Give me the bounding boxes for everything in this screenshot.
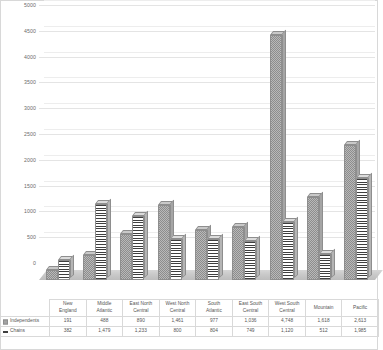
legend-label: Independents bbox=[10, 318, 39, 323]
bar-side-face bbox=[144, 211, 148, 278]
gridline bbox=[39, 5, 375, 6]
bar-front-face bbox=[58, 260, 70, 280]
bar-chains-new-england[interactable] bbox=[58, 260, 70, 280]
table-column-header-line: New bbox=[50, 301, 86, 308]
table-column-header-line: Central bbox=[123, 308, 159, 315]
table-cell: 1,036 bbox=[232, 317, 269, 327]
table-column-header: MiddleAtlantic bbox=[86, 300, 123, 317]
table-cell: 1,618 bbox=[305, 317, 342, 327]
bar-chains-west-north-central[interactable] bbox=[170, 239, 182, 280]
bar-independents-pacific[interactable] bbox=[344, 145, 356, 280]
legend-swatch-icon bbox=[3, 319, 8, 324]
data-table: NewEnglandMiddleAtlanticEast NorthCentra… bbox=[1, 299, 379, 337]
bar-group bbox=[263, 22, 300, 280]
bar-side-face bbox=[294, 217, 298, 278]
table-column-header-line: East South bbox=[233, 301, 269, 308]
table-cell: 488 bbox=[86, 317, 123, 327]
table-column-header-line: Central bbox=[233, 308, 269, 315]
y-axis-tick-label: 5000 bbox=[24, 2, 36, 8]
bar-group bbox=[76, 22, 113, 280]
table-column-header: Mountain bbox=[305, 300, 342, 317]
bar-group bbox=[300, 22, 337, 280]
bar-chains-mountain[interactable] bbox=[319, 254, 331, 280]
bar-front-face bbox=[319, 254, 331, 280]
bar-group bbox=[151, 22, 188, 280]
table-cell: 512 bbox=[305, 327, 342, 337]
table-cell: 382 bbox=[50, 327, 87, 337]
bar-front-face bbox=[195, 230, 207, 280]
y-axis-tick-label: 1500 bbox=[24, 183, 36, 189]
bar-front-face bbox=[158, 205, 170, 280]
table-column-header-line: South bbox=[196, 301, 232, 308]
y-axis-tick-label: 4500 bbox=[24, 28, 36, 34]
table-column-header-line: Central bbox=[269, 308, 305, 315]
bar-chains-west-south-central[interactable] bbox=[282, 222, 294, 280]
bar-front-face bbox=[132, 216, 144, 280]
table-column-header-line: Middle bbox=[87, 301, 123, 308]
table-cell: 749 bbox=[232, 327, 269, 337]
table-column-header: West NorthCentral bbox=[159, 300, 196, 317]
legend-item-independents[interactable]: Independents bbox=[1, 317, 50, 327]
bar-front-face bbox=[270, 35, 282, 280]
bar-front-face bbox=[356, 178, 368, 280]
legend-line-icon bbox=[3, 331, 8, 333]
table-column-header: SouthAtlantic bbox=[196, 300, 233, 317]
bar-side-face bbox=[256, 236, 260, 278]
table-column-header: West SouthCentral bbox=[269, 300, 306, 317]
table-cell: 4,748 bbox=[269, 317, 306, 327]
bar-independents-south-atlantic[interactable] bbox=[195, 230, 207, 280]
y-axis-labels: 0500100015002000250030003500400045005000 bbox=[1, 5, 39, 280]
table-cell: 1,985 bbox=[342, 327, 379, 337]
table-column-header-line: Pacific bbox=[342, 305, 378, 312]
plot-area: 0500100015002000250030003500400045005000 bbox=[1, 5, 379, 297]
table-column-header: Pacific bbox=[342, 300, 379, 317]
table-cell: 890 bbox=[123, 317, 160, 327]
bar-independents-middle-atlantic[interactable] bbox=[83, 255, 95, 280]
bar-chains-east-north-central[interactable] bbox=[132, 216, 144, 280]
bar-chains-south-atlantic[interactable] bbox=[207, 239, 219, 280]
bar-independents-east-north-central[interactable] bbox=[120, 234, 132, 280]
table-column-header-line: Mountain bbox=[306, 305, 342, 312]
y-axis-tick-label: 2500 bbox=[24, 131, 36, 137]
bar-independents-west-south-central[interactable] bbox=[270, 35, 282, 280]
table-column-header-line: Atlantic bbox=[196, 308, 232, 315]
bar-independents-new-england[interactable] bbox=[46, 270, 58, 280]
table-cell: 2,613 bbox=[342, 317, 379, 327]
bar-front-face bbox=[344, 145, 356, 280]
table-column-header: East SouthCentral bbox=[232, 300, 269, 317]
table-column-header-line: West South bbox=[269, 301, 305, 308]
bar-group bbox=[226, 22, 263, 280]
bar-front-face bbox=[244, 241, 256, 280]
bar-side-face bbox=[368, 172, 372, 278]
bar-chains-east-south-central[interactable] bbox=[244, 241, 256, 280]
table-column-header-line: West North bbox=[160, 301, 196, 308]
table-column-header-line: East North bbox=[123, 301, 159, 308]
bar-independents-east-south-central[interactable] bbox=[232, 227, 244, 280]
y-axis-tick-label: 0 bbox=[33, 260, 36, 266]
table-header-row: NewEnglandMiddleAtlanticEast NorthCentra… bbox=[1, 300, 379, 317]
table-column-header-line: Central bbox=[160, 308, 196, 315]
bar-independents-mountain[interactable] bbox=[307, 197, 319, 280]
bar-groups bbox=[39, 22, 375, 280]
bar-side-face bbox=[182, 234, 186, 278]
bar-independents-west-north-central[interactable] bbox=[158, 205, 170, 280]
table-column-header-line: Atlantic bbox=[87, 308, 123, 315]
bar-group bbox=[188, 22, 225, 280]
y-axis-tick-label: 1000 bbox=[24, 208, 36, 214]
bar-group bbox=[114, 22, 151, 280]
bar-chains-middle-atlantic[interactable] bbox=[95, 204, 107, 280]
table-cell: 1,479 bbox=[86, 327, 123, 337]
bar-side-face bbox=[107, 199, 111, 278]
table-cell: 800 bbox=[159, 327, 196, 337]
table-cell: 191 bbox=[50, 317, 87, 327]
bar-front-face bbox=[307, 197, 319, 280]
bar-front-face bbox=[232, 227, 244, 280]
y-axis-tick-label: 500 bbox=[27, 234, 36, 240]
bar-front-face bbox=[83, 255, 95, 280]
table-row: Chains3821,4791,2338008047491,1205121,98… bbox=[1, 327, 379, 337]
legend-item-chains[interactable]: Chains bbox=[1, 327, 50, 337]
table-cell: 977 bbox=[196, 317, 233, 327]
bar-chains-pacific[interactable] bbox=[356, 178, 368, 280]
y-axis-tick-label: 3500 bbox=[24, 79, 36, 85]
table-cell: 1,233 bbox=[123, 327, 160, 337]
